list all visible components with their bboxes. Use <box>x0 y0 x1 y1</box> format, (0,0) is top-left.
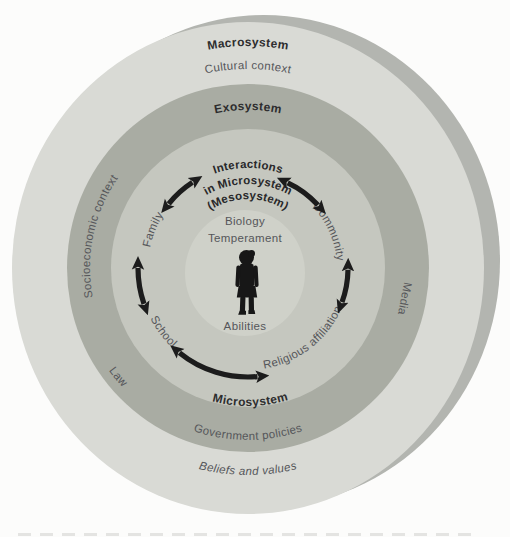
temperament-label: Temperament <box>208 232 283 244</box>
ecological-systems-diagram: Macrosystem Cultural context Beliefs and… <box>0 0 510 537</box>
abilities-label: Abilities <box>224 320 267 332</box>
biology-label: Biology <box>225 215 265 227</box>
diagram-canvas: Macrosystem Cultural context Beliefs and… <box>0 0 510 537</box>
